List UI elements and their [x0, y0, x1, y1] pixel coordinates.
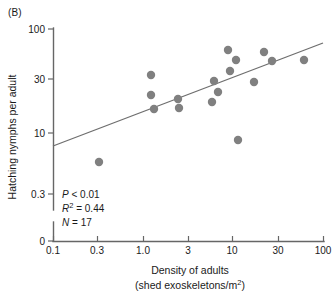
stat-n-text: = 17: [69, 217, 92, 228]
data-point: [175, 104, 183, 112]
data-point: [147, 71, 155, 79]
data-point: [232, 56, 240, 64]
x-axis-title-line2: (shed exoskeletons/m2): [135, 278, 245, 291]
data-point: [95, 158, 103, 166]
figure-panel-b: (B) 100 30 10 0.3 0: [0, 0, 336, 293]
data-point: [226, 67, 234, 75]
data-point: [268, 57, 276, 65]
data-point: [174, 95, 182, 103]
stats-annotation: P < 0.01 R2 = 0.44 N = 17: [62, 189, 105, 228]
y-axis-ticks: [48, 29, 53, 241]
y-tick-label-0: 0: [39, 236, 45, 247]
stat-r-squared: R2 = 0.44: [62, 201, 105, 214]
x-axis-title-line2-pre: (shed exoskeletons/m: [135, 279, 237, 291]
data-point: [250, 78, 258, 86]
data-point: [208, 98, 216, 106]
data-point: [147, 91, 155, 99]
data-point: [224, 46, 232, 54]
x-tick-label-1-0: 1.0: [136, 245, 150, 256]
data-points-group: [95, 46, 308, 166]
x-axis-title-line2-post: ): [241, 279, 245, 291]
stat-p-value: P < 0.01: [62, 189, 100, 200]
x-axis-ticks: [54, 236, 324, 241]
x-axis-title-line1: Density of adults: [151, 264, 229, 276]
stat-n-value: N = 17: [62, 217, 92, 228]
scatter-plot: 100 30 10 0.3 0 0.1 0.3 1.0 3 10 30 100 …: [0, 0, 336, 293]
x-tick-label-10: 10: [226, 245, 238, 256]
y-axis-title: Hatching nymphs per adult: [6, 74, 18, 199]
data-point: [260, 48, 268, 56]
data-point: [150, 105, 158, 113]
y-tick-label-30: 30: [34, 74, 46, 85]
data-point: [234, 136, 242, 144]
stat-p-text: < 0.01: [69, 189, 100, 200]
x-tick-label-30: 30: [272, 245, 284, 256]
x-tick-label-3: 3: [185, 245, 191, 256]
data-point: [300, 56, 308, 64]
x-tick-label-0-1: 0.1: [46, 245, 60, 256]
x-tick-label-0-3: 0.3: [90, 245, 104, 256]
y-tick-label-100: 100: [28, 24, 45, 35]
y-tick-label-0-3: 0.3: [31, 189, 45, 200]
regression-fit-line: [53, 43, 323, 146]
data-point: [214, 88, 222, 96]
data-point: [210, 77, 218, 85]
stat-r-text: = 0.44: [73, 203, 104, 214]
x-tick-label-100: 100: [315, 245, 332, 256]
stat-r-symbol: R: [62, 203, 69, 214]
y-tick-label-10: 10: [34, 128, 46, 139]
